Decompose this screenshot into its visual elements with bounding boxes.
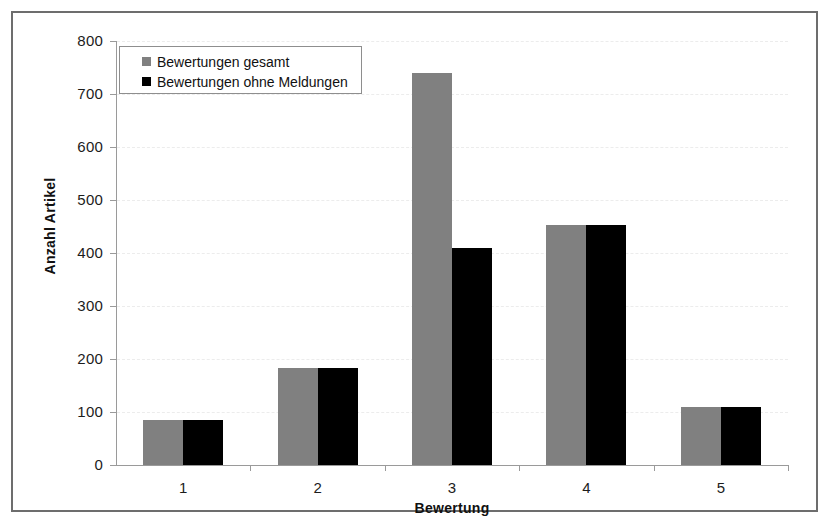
bar [586,225,626,465]
gridline [117,41,788,43]
black-swatch-icon [142,77,151,86]
y-tick-label: 100 [43,403,103,420]
bar [143,420,183,465]
y-tick-mark [110,94,116,95]
x-tick-label: 4 [546,479,626,496]
chart-legend: Bewertungen gesamt Bewertungen ohne Meld… [119,46,362,94]
y-tick-mark [110,147,116,148]
gridline [117,200,788,202]
bar [278,368,318,465]
y-tick-mark [110,41,116,42]
y-tick-label: 300 [43,297,103,314]
x-tick-label: 2 [278,479,358,496]
x-tick-mark [788,465,789,471]
x-tick-mark [385,465,386,471]
legend-label: Bewertungen ohne Meldungen [157,74,348,90]
bar [681,407,721,465]
bar [546,225,586,465]
bar [452,248,492,465]
bar-chart: 0100200300400500600700800 12345 Anzahl A… [13,13,827,525]
x-tick-label: 1 [143,479,223,496]
y-tick-mark [110,253,116,254]
y-axis-title: Anzahl Artikel [42,156,58,296]
y-tick-label: 600 [43,138,103,155]
x-tick-label: 5 [681,479,761,496]
y-tick-mark [110,359,116,360]
y-axis-line [116,41,117,466]
y-tick-mark [110,465,116,466]
x-tick-label: 3 [412,479,492,496]
legend-label: Bewertungen gesamt [157,54,289,70]
x-axis-title: Bewertung [116,500,788,516]
y-tick-mark [110,306,116,307]
gridline [117,94,788,96]
legend-entry-gesamt: Bewertungen gesamt [142,52,361,71]
y-tick-mark [110,412,116,413]
y-tick-label: 800 [43,32,103,49]
x-tick-mark [654,465,655,471]
x-tick-mark [250,465,251,471]
bar [721,407,761,465]
bar [412,73,452,465]
x-tick-mark [519,465,520,471]
legend-entry-ohne-meldungen: Bewertungen ohne Meldungen [142,72,361,91]
gridline [117,147,788,149]
y-tick-label: 200 [43,350,103,367]
bar [318,368,358,465]
bar [183,420,223,465]
gray-swatch-icon [142,57,151,66]
y-tick-label: 700 [43,85,103,102]
y-tick-label: 0 [43,456,103,473]
y-tick-mark [110,200,116,201]
figure-frame: 0100200300400500600700800 12345 Anzahl A… [11,11,818,512]
x-axis-line [116,465,789,466]
